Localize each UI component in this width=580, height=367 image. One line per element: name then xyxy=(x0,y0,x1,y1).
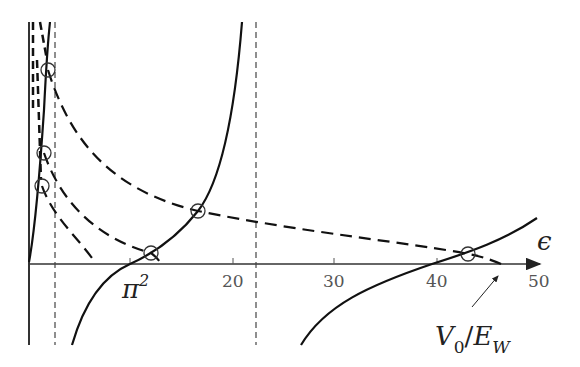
tick-label-50: 50 xyxy=(528,271,550,291)
dashed-curve-outer xyxy=(48,70,505,266)
solid-curve-branch-2 xyxy=(72,22,242,345)
tick-label-40: 40 xyxy=(426,271,448,291)
tick-label-30: 30 xyxy=(323,271,345,291)
annotation-arrow xyxy=(472,276,498,307)
dashed-curve-middle xyxy=(44,153,160,262)
annotation-v0-over-ew: V0/EW xyxy=(435,321,511,357)
x-axis-ticks xyxy=(130,258,437,264)
chart-canvas: π2 20 30 40 50 ϵ V0/EW xyxy=(0,0,580,367)
x-axis-symbol: ϵ xyxy=(537,226,552,256)
tick-label-pi-squared: π2 xyxy=(121,271,149,304)
tick-label-20: 20 xyxy=(222,271,244,291)
